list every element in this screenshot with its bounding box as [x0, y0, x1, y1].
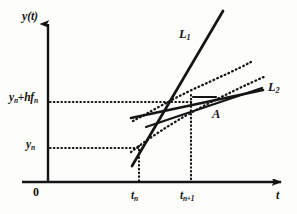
- x-axis-label-text: t: [276, 188, 279, 202]
- yn-sub: n: [31, 143, 35, 152]
- point-a-text: A: [212, 107, 220, 121]
- x-axis-label: t: [276, 189, 279, 201]
- yn-hfn-base2: hf: [24, 91, 34, 103]
- tn1-sub: n+1: [183, 194, 194, 203]
- y-axis-label-text: y(t): [22, 9, 38, 23]
- y-tick-label-yn-plus-hfn: yn+hfn: [9, 92, 38, 104]
- figure-canvas: y(t) yn+hfn yn 0 tn tn+1 t L1 L2 A: [0, 0, 297, 214]
- x-tick-label-tn-plus-1: tn+1: [180, 190, 194, 202]
- curve-label-L2: L2: [268, 81, 279, 95]
- curve-label-L1: L1: [179, 28, 190, 42]
- y-axis-label: y(t): [22, 10, 38, 22]
- tn-sub: n: [134, 194, 138, 203]
- origin-label: 0: [33, 186, 39, 198]
- point-label-A: A: [212, 108, 220, 121]
- diagram-svg: [0, 0, 297, 214]
- line-L1: [132, 11, 223, 166]
- yn-hfn-sub2: n: [34, 96, 38, 105]
- origin-label-text: 0: [33, 185, 39, 199]
- line-secondary-chord: [146, 88, 262, 127]
- l1-sub: 1: [186, 33, 190, 42]
- y-tick-label-yn: yn: [26, 139, 35, 151]
- x-tick-label-tn: tn: [131, 190, 138, 202]
- l2-sub: 2: [275, 86, 279, 95]
